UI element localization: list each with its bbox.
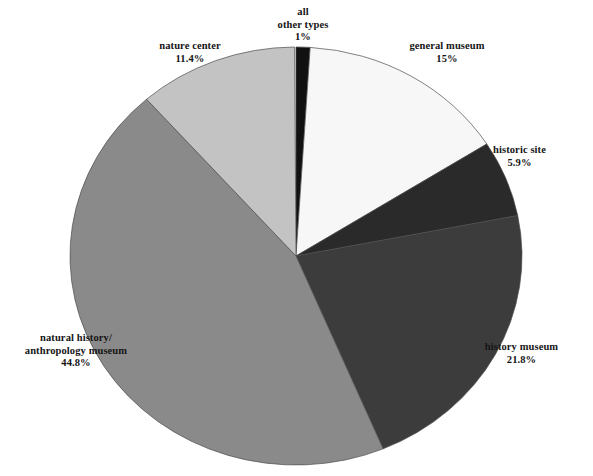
- slice-label-name-line1: history museum: [452, 341, 591, 354]
- slice-label-all-other-types: all other types 1%: [238, 6, 368, 44]
- slice-label-name-line1: natural history/: [0, 332, 152, 345]
- slice-label-value: 5.9%: [452, 157, 587, 170]
- slice-label-general-museum: general museum 15%: [322, 40, 572, 65]
- slice-label-natural-history-anthropology-museum: natural history/ anthropology museum 44.…: [0, 332, 152, 370]
- slice-label-value: 11.4%: [108, 53, 272, 66]
- slice-label-history-museum: history museum 21.8%: [452, 341, 591, 366]
- slice-label-name-line1: all: [238, 6, 368, 19]
- pie-chart: [0, 0, 593, 476]
- slice-label-value: 15%: [322, 53, 572, 66]
- slice-label-name-line2: other types: [238, 19, 368, 32]
- slice-label-nature-center: nature center 11.4%: [108, 40, 272, 65]
- slice-label-name-line1: nature center: [108, 40, 272, 53]
- slice-label-name-line1: general museum: [322, 40, 572, 53]
- chart-page: organization type all other types 1% gen…: [0, 0, 593, 476]
- pie-slice-group: [70, 47, 522, 465]
- slice-label-value: 21.8%: [452, 354, 591, 367]
- slice-label-name-line2: anthropology museum: [0, 345, 152, 358]
- slice-label-value: 44.8%: [0, 357, 152, 370]
- slice-label-name-line1: historic site: [452, 144, 587, 157]
- slice-label-historic-site: historic site 5.9%: [452, 144, 587, 169]
